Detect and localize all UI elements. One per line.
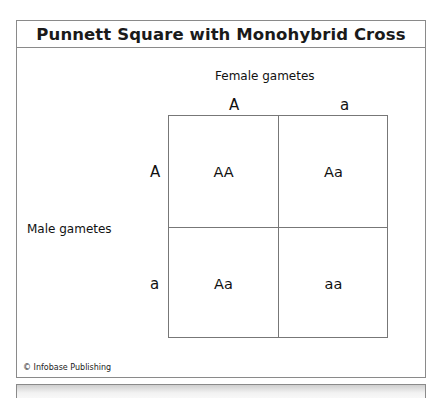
- credit-text: © Infobase Publishing: [23, 363, 111, 372]
- diagram-frame: Punnett Square with Monohybrid Cross Fem…: [16, 20, 426, 378]
- cell-Aa-bottom: Aa: [169, 228, 278, 339]
- male-gametes-label: Male gametes: [27, 222, 112, 236]
- punnett-grid: AA Aa Aa aa: [168, 115, 388, 338]
- cell-Aa-top: Aa: [279, 116, 388, 227]
- female-gamete-2: a: [340, 96, 349, 114]
- bottom-bar: [16, 384, 426, 398]
- male-gamete-1: A: [150, 163, 160, 181]
- female-gametes-label: Female gametes: [215, 69, 315, 83]
- cell-aa: aa: [279, 228, 388, 339]
- male-gamete-2: a: [150, 275, 159, 293]
- female-gamete-1: A: [229, 96, 239, 114]
- diagram-title: Punnett Square with Monohybrid Cross: [17, 21, 425, 48]
- cell-AA: AA: [169, 116, 278, 227]
